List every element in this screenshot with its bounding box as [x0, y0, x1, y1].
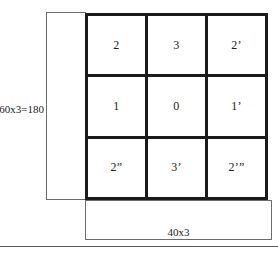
grid-cell: 2’”	[208, 139, 268, 200]
width-annotation-label: 40x3	[86, 226, 271, 238]
grid-cell-label: 2’”	[228, 161, 244, 174]
grid-cell: 2’	[208, 16, 268, 77]
grid-cell: 2	[88, 16, 148, 77]
height-annotation-label: 60x3=180	[0, 103, 46, 115]
grid-cell-label: 0	[173, 100, 179, 113]
grid-cell-label: 1’	[231, 100, 242, 113]
height-annotation-box: 60x3=180	[46, 12, 86, 200]
grid-cell-label: 2	[113, 39, 119, 52]
grid-cell: 3	[148, 16, 208, 77]
three-by-three-grid: 2 3 2’ 1 0 1’ 2” 3’ 2’”	[85, 13, 268, 200]
grid-cell-label: 1	[113, 100, 119, 113]
grid-cell: 2”	[88, 139, 148, 200]
footer-divider	[0, 246, 278, 247]
grid-cell: 1’	[208, 77, 268, 138]
figure-canvas: 60x3=180 2 3 2’ 1 0 1’ 2” 3’ 2’” 4	[0, 0, 278, 255]
grid-cell-label: 3’	[171, 161, 182, 174]
grid-cell: 1	[88, 77, 148, 138]
grid-cell-label: 3	[173, 39, 179, 52]
width-annotation-box: 40x3	[85, 200, 272, 240]
grid-cell: 0	[148, 77, 208, 138]
grid-cell-label: 2’	[231, 39, 242, 52]
grid-cell-label: 2”	[111, 161, 123, 174]
grid-cell: 3’	[148, 139, 208, 200]
